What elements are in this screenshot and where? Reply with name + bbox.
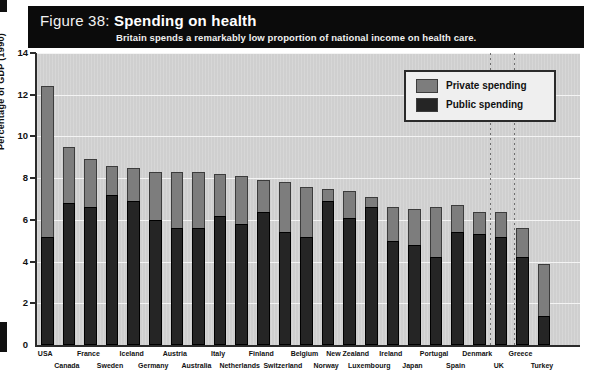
bar-segment-public [451,232,464,345]
bar-segment-public [343,218,356,345]
bar-segment-public [322,201,335,345]
bar-segment-public [214,216,227,345]
bar-usa [41,86,54,345]
x-label-new-zealand: New Zealand [326,350,369,357]
x-label-luxembourg: Luxembourg [348,362,390,369]
x-label-norway: Norway [313,362,338,369]
bar-iceland [127,168,140,345]
gridline-14 [37,53,580,54]
x-label-iceland: Iceland [120,350,144,357]
bar-segment-public [63,203,76,345]
bar-australia [192,172,205,345]
y-tick-label-14: 14 [6,47,28,58]
chart-legend: Private spending Public spending [404,70,556,122]
bar-segment-public [279,232,292,345]
bar-segment-public [495,237,508,345]
bar-segment-public [41,237,54,345]
bar-turkey [538,264,551,345]
x-label-canada: Canada [54,362,79,369]
figure-caption: Figure 38: Spending on health [40,12,257,29]
legend-label-public: Public spending [446,99,523,110]
bar-segment-public [365,207,378,345]
bar-france [84,159,97,345]
bar-segment-public [538,316,551,345]
figure-number: Figure 38: [40,12,110,29]
x-label-belgium: Belgium [291,350,319,357]
bar-ireland [387,207,400,345]
y-tick-label-10: 10 [6,130,28,141]
x-label-denmark: Denmark [462,350,492,357]
bar-netherlands [235,176,248,345]
y-tick-label-2: 2 [6,297,28,308]
x-label-sweden: Sweden [97,362,123,369]
bar-segment-public [516,257,529,345]
bar-segment-public [408,245,421,345]
figure-header: Figure 38: Spending on health Britain sp… [28,6,584,48]
x-label-turkey: Turkey [531,362,553,369]
bar-segment-public [473,234,486,345]
bar-segment-public [171,228,184,345]
x-label-spain: Spain [446,362,465,369]
gridline-10 [37,136,580,137]
bar-sweden [106,166,119,345]
x-label-greece: Greece [509,350,533,357]
bar-segment-public [387,241,400,345]
legend-swatch-private [416,79,438,93]
bar-segment-public [257,212,270,345]
x-label-austria: Austria [163,350,187,357]
bar-segment-public [127,201,140,345]
bar-switzerland [279,182,292,345]
legend-swatch-public [416,98,438,112]
x-label-japan: Japan [402,362,422,369]
x-label-uk: UK [494,362,504,369]
x-label-ireland: Ireland [379,350,402,357]
bar-segment-public [84,207,97,345]
y-tick-label-8: 8 [6,172,28,183]
y-tick-label-4: 4 [6,256,28,267]
x-label-france: France [77,350,100,357]
bar-italy [214,174,227,345]
y-axis-title: Percentage of GDP (1990) [0,10,6,150]
bar-segment-public [300,237,313,345]
x-label-italy: Italy [211,350,225,357]
bar-belgium [300,187,313,346]
bar-new-zealand [343,191,356,345]
bar-segment-public [430,257,443,345]
bar-finland [257,180,270,345]
x-label-germany: Germany [138,362,168,369]
y-tick-label-12: 12 [6,89,28,100]
y-tick-label-0: 0 [6,339,28,350]
bar-segment-public [149,220,162,345]
bar-spain [451,205,464,345]
gridline-8 [37,178,580,179]
bar-portugal [430,207,443,345]
bar-uk [495,212,508,345]
bar-germany [149,172,162,345]
legend-label-private: Private spending [446,80,527,91]
figure-subtitle: Britain spends a remarkably low proporti… [116,32,476,43]
bar-austria [171,172,184,345]
bar-segment-public [192,228,205,345]
bar-segment-public [235,224,248,345]
y-tick-label-6: 6 [6,214,28,225]
figure-root: Figure 38: Spending on health Britain sp… [0,0,589,382]
bar-norway [322,189,335,345]
x-label-netherlands: Netherlands [219,362,259,369]
bar-japan [408,209,421,345]
x-label-usa: USA [38,350,53,357]
figure-title: Spending on health [114,12,257,29]
bar-denmark [473,212,486,345]
bar-greece [516,228,529,345]
x-label-finland: Finland [249,350,274,357]
x-label-australia: Australia [181,362,211,369]
bar-luxembourg [365,197,378,345]
bar-canada [63,147,76,345]
x-label-switzerland: Switzerland [263,362,302,369]
x-label-portugal: Portugal [420,350,448,357]
bar-segment-public [106,195,119,345]
